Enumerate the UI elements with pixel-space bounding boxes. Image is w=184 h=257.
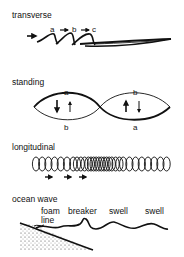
transverse-crest-a <box>37 34 58 44</box>
longitudinal-spring <box>32 157 170 171</box>
standing-wave <box>34 93 170 120</box>
standing-loop1-top <box>34 93 100 107</box>
standing-loop2-top <box>100 93 170 107</box>
foam-line-mark <box>34 225 44 226</box>
ocean-surface <box>36 218 168 229</box>
transverse-crest-b <box>56 33 75 45</box>
standing-loop1-bottom <box>34 107 100 120</box>
transverse-wave <box>27 30 171 46</box>
wave-diagram <box>0 0 184 257</box>
standing-loop2-bottom <box>100 107 170 120</box>
ocean-wave <box>20 218 168 250</box>
